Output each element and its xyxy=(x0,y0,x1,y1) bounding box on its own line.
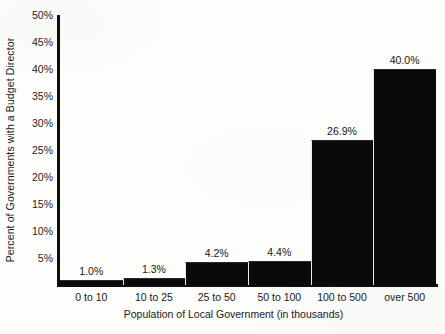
y-axis-tick-label: 50% xyxy=(0,10,53,21)
bar xyxy=(60,280,123,285)
bar-value-label: 40.0% xyxy=(363,54,445,66)
y-axis-tick-label: 45% xyxy=(0,37,53,48)
bar-value-label: 1.3% xyxy=(113,263,196,275)
y-axis-tick-label: 10% xyxy=(0,226,53,237)
x-axis-tick-label: over 500 xyxy=(361,291,445,304)
y-axis-tick-label: 40% xyxy=(0,64,53,75)
bar xyxy=(185,262,248,285)
bar xyxy=(373,69,436,285)
y-axis-tick-label: 20% xyxy=(0,172,53,183)
y-axis-tick-label: 35% xyxy=(0,91,53,102)
y-axis-tick-label: 15% xyxy=(0,199,53,210)
x-axis-tick-labels: 0 to 1010 to 2525 to 5050 to 100100 to 5… xyxy=(60,291,436,305)
bar xyxy=(248,261,311,285)
bar xyxy=(311,140,374,285)
y-axis-tick-label: 30% xyxy=(0,118,53,129)
plot-area: 1.0%1.3%4.2%4.4%26.9%40.0% xyxy=(60,15,436,285)
bar xyxy=(123,278,186,285)
bar-value-label: 26.9% xyxy=(301,125,384,137)
bar-chart: Percent of Governments with a Budget Dir… xyxy=(0,0,445,334)
y-axis-tick-labels: 50%45%40%35%30%25%20%15%10%5% xyxy=(0,0,53,334)
y-axis-tick-label: 25% xyxy=(0,145,53,156)
x-axis-title: Population of Local Government (in thous… xyxy=(0,308,445,321)
bar-value-label: 4.4% xyxy=(238,246,321,258)
y-axis-tick-label: 5% xyxy=(0,253,53,264)
